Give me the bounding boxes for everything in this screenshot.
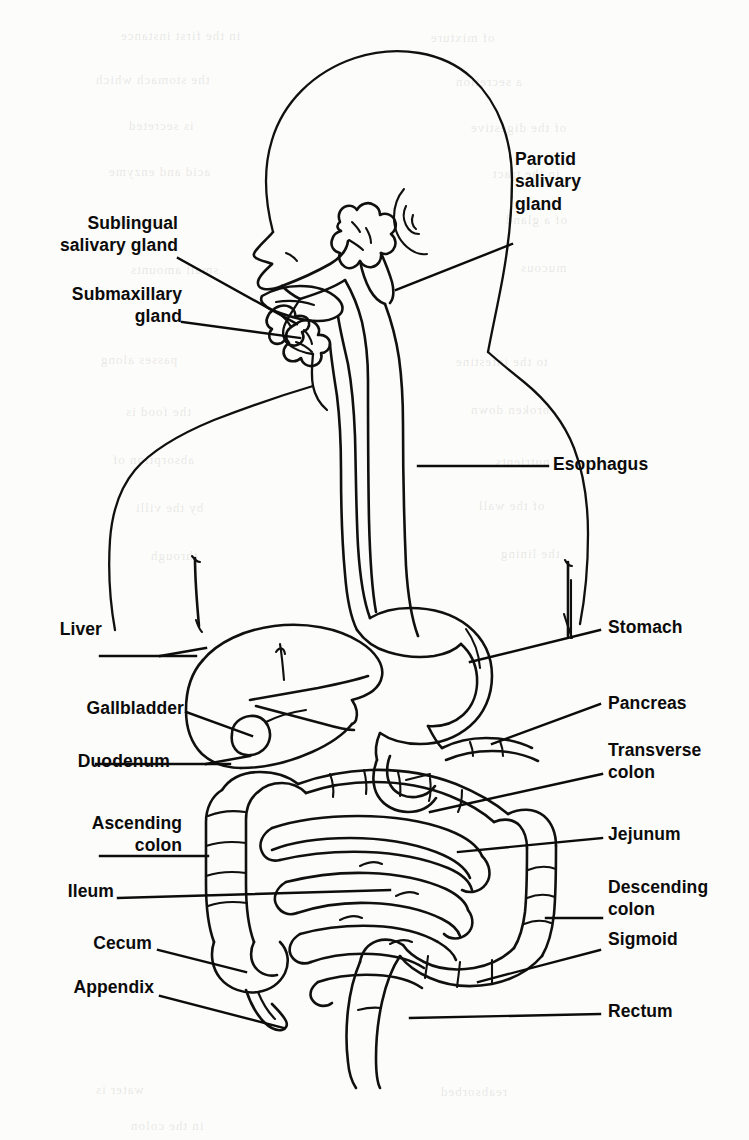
- leader-sublingual: [178, 258, 297, 324]
- label-ileum: Ileum: [42, 880, 114, 902]
- leader-stomach: [470, 630, 600, 662]
- leader-appendix: [160, 996, 284, 1028]
- leader-pancreas: [492, 704, 600, 744]
- submaxillary-gland: [284, 320, 330, 366]
- label-duodenum: Duodenum: [42, 750, 170, 772]
- digestive-system-figure: [0, 0, 749, 1140]
- scanned-page: in the first instanceof mixturethe stoma…: [0, 0, 749, 1140]
- leader-rectum: [410, 1014, 600, 1018]
- small-intestine: [260, 816, 489, 1006]
- label-appendix: Appendix: [42, 976, 154, 998]
- leader-cecum: [158, 950, 246, 972]
- pharynx-and-oral-cavity: [282, 241, 418, 636]
- leader-transverse-colon: [430, 774, 602, 812]
- leader-sigmoid: [478, 950, 600, 982]
- pancreas: [442, 738, 538, 761]
- leader-ileum: [118, 890, 390, 898]
- label-stomach: Stomach: [608, 616, 683, 638]
- leader-gallbladder: [186, 712, 252, 736]
- label-gallbladder: Gallbladder: [42, 697, 184, 719]
- head-and-neck-outline: [254, 51, 512, 410]
- stomach: [357, 608, 492, 760]
- label-rectum: Rectum: [608, 1000, 673, 1022]
- label-pancreas: Pancreas: [608, 692, 687, 714]
- esophagus: [330, 316, 370, 630]
- label-parotid: Parotid salivary gland: [515, 148, 581, 215]
- label-jejunum: Jejunum: [608, 823, 681, 845]
- leader-jejunum: [458, 838, 602, 852]
- liver: [186, 625, 382, 768]
- label-descending-colon: Descending colon: [608, 876, 708, 921]
- label-transverse-colon: Transverse colon: [608, 739, 701, 784]
- label-sublingual: Sublingual salivary gland: [42, 212, 178, 257]
- label-cecum: Cecum: [42, 932, 152, 954]
- label-esophagus: Esophagus: [553, 453, 648, 475]
- label-submaxillary: Submaxillary gland: [42, 283, 182, 328]
- label-sigmoid: Sigmoid: [608, 928, 678, 950]
- label-ascending-colon: Ascending colon: [42, 812, 182, 857]
- ear: [394, 189, 427, 254]
- label-liver: Liver: [42, 618, 102, 640]
